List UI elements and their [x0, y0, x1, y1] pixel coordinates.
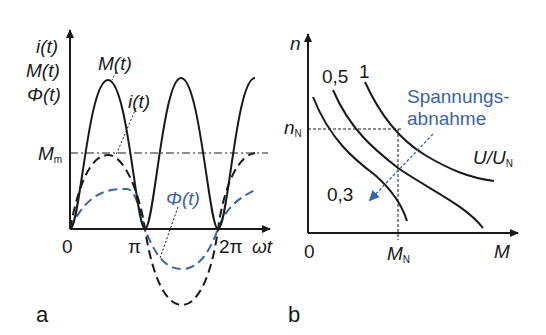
y-label-current: i(t) — [36, 36, 58, 57]
panel-a: i(t) M(t) Φ(t) Mm M(t) i(t) Φ(t) 0 π 2π … — [26, 30, 273, 327]
y-label-flux: Φ(t) — [27, 84, 61, 105]
panel-a-label: a — [36, 302, 49, 327]
torque-curve-label: M(t) — [98, 53, 132, 74]
curve-label-0-5: 0,5 — [322, 66, 348, 87]
b-x-axis-label: M — [494, 241, 510, 262]
x-tick-pi: π — [128, 236, 141, 257]
flux-leader-line — [160, 207, 178, 258]
mn-label: MN — [387, 243, 410, 265]
flux-curve-label: Φ(t) — [166, 188, 200, 209]
nn-label: nN — [284, 117, 302, 139]
x-tick-0: 0 — [62, 236, 73, 257]
panel-b: n nN 0,5 1 0,3 Spannungs- abnahme U/UN 0… — [284, 33, 518, 327]
x-tick-2pi: 2π — [219, 236, 243, 257]
y-label-torque: M(t) — [26, 60, 60, 81]
annotation-line-2: abnahme — [407, 108, 486, 129]
current-curve-label: i(t) — [128, 91, 150, 112]
b-x-tick-0: 0 — [304, 241, 315, 262]
voltage-decrease-arrow — [370, 134, 433, 200]
panel-b-label: b — [288, 302, 300, 327]
mm-label: Mm — [38, 143, 62, 165]
b-y-axis-label: n — [290, 33, 301, 54]
parameter-label: U/UN — [473, 147, 513, 169]
curve-label-0-3: 0,3 — [327, 184, 353, 205]
annotation-line-1: Spannungs- — [407, 86, 509, 107]
curve-label-1: 1 — [359, 61, 370, 82]
x-axis-label: ωt — [252, 236, 273, 257]
diagram-canvas: i(t) M(t) Φ(t) Mm M(t) i(t) Φ(t) 0 π 2π … — [0, 0, 546, 335]
current-leader-line — [116, 108, 136, 155]
